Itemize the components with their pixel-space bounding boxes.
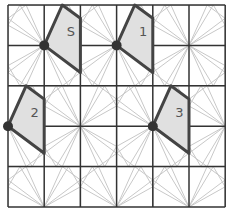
- shape-label: 2: [30, 105, 38, 120]
- shape-label: S: [67, 24, 75, 39]
- guide-line: [8, 207, 68, 216]
- shape-2: 2: [3, 86, 44, 153]
- guide-line: [20, 207, 80, 216]
- shape-label: 3: [175, 105, 183, 120]
- shape-outline: [153, 86, 189, 153]
- pivot-dot-icon: [112, 40, 122, 50]
- rotation-grid-diagram: S123: [0, 0, 229, 216]
- shape-outline: [44, 5, 80, 72]
- shape-s: S: [39, 5, 80, 72]
- guide-line: [165, 207, 225, 216]
- shape-outline: [117, 5, 153, 72]
- guide-line: [80, 207, 140, 216]
- shape-1: 1: [112, 5, 153, 72]
- guide-line: [8, 167, 44, 216]
- guide-line: [0, 99, 8, 166]
- pivot-dot-icon: [3, 121, 13, 131]
- pivot-dot-icon: [39, 40, 49, 50]
- guide-line: [117, 167, 153, 216]
- shape-outline: [8, 86, 44, 153]
- guide-line: [92, 207, 152, 216]
- guide-line: [153, 167, 189, 216]
- guide-line: [80, 167, 116, 216]
- shape-3: 3: [148, 86, 189, 153]
- guide-line: [44, 167, 80, 216]
- pivot-dot-icon: [148, 121, 158, 131]
- shape-label: 1: [139, 24, 147, 39]
- guide-line: [189, 167, 225, 216]
- guide-line: [0, 86, 8, 153]
- guide-line: [153, 207, 213, 216]
